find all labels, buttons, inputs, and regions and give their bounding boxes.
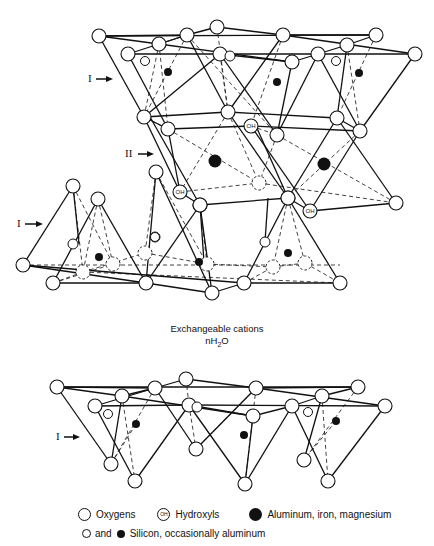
hydroxyl-label: OH <box>176 189 185 195</box>
water-o: O <box>221 335 228 346</box>
oxygen-atom-icon <box>149 165 163 179</box>
oxygen-atom-icon <box>315 389 329 403</box>
oxygen-atom-icon <box>148 381 162 395</box>
bond <box>144 112 228 117</box>
oxygen-atom-icon <box>238 477 252 491</box>
oxygen-atom-icon <box>340 38 354 52</box>
silicon-solid-symbol-icon <box>117 530 125 538</box>
oxygen-atom-icon <box>311 47 325 61</box>
silicon-atom-icon <box>355 69 363 77</box>
oxygen-atom-icon <box>249 381 263 395</box>
legend-aluminum: Aluminum, iron, magnesium <box>267 509 391 520</box>
legend-oxygens: Oxygens <box>96 509 135 520</box>
hidden-oxygen-icon <box>266 260 280 274</box>
oxygen-atom-icon <box>121 47 135 61</box>
aluminum-symbol-icon <box>249 508 262 521</box>
silicon-atom-icon <box>240 431 248 439</box>
silicon-atom-icon <box>95 253 103 261</box>
oxygen-atom-icon <box>104 457 118 471</box>
oxygen-atom-icon <box>152 37 166 51</box>
legend-hydroxyls: Hydroxyls <box>175 509 219 520</box>
solid-bonds <box>23 27 415 484</box>
silicon-open-symbol-icon <box>82 529 91 538</box>
oxygen-atom-icon <box>210 20 224 34</box>
bond <box>57 387 122 396</box>
layer-label-I-top: I <box>88 72 92 84</box>
hydroxyl-label: OH <box>306 208 315 214</box>
interlayer-caption-cations: Exchangeable cations <box>0 323 434 334</box>
bond <box>146 172 156 283</box>
arrow-icon-layer-I-bottom <box>64 434 80 440</box>
bond <box>292 406 328 481</box>
bond <box>99 36 144 117</box>
bond <box>200 198 288 205</box>
aluminum-atom-icon <box>318 158 331 171</box>
legend-and: and <box>95 528 112 539</box>
oxygen-atom-icon <box>179 372 193 386</box>
dashed-bond <box>83 199 98 272</box>
silicon-atom-icon <box>332 417 340 425</box>
oxygen-atom-icon <box>68 239 78 249</box>
bond <box>98 199 146 283</box>
oxygen-atom-icon <box>92 29 106 43</box>
oxygen-atom-icon <box>193 198 207 212</box>
hidden-oxygen-icon <box>106 257 120 271</box>
silicon-atom-icon <box>332 57 341 66</box>
oxygen-atom-icon <box>369 28 383 42</box>
silicon-atom-icon <box>195 258 203 266</box>
interlayer-caption-water: nH2O <box>0 335 434 348</box>
oxygen-atom-icon <box>237 276 251 290</box>
bond <box>57 387 111 464</box>
oxygen-atom-icon <box>16 258 30 272</box>
hidden-oxygen-icon <box>252 176 266 190</box>
silicon-atom-icon <box>284 249 292 257</box>
oxygen-atom-icon <box>408 47 422 61</box>
dashed-bond <box>217 27 228 112</box>
oxygen-atom-icon <box>297 453 311 467</box>
oxygen-atom-icon <box>180 28 194 42</box>
silicon-atom-icon <box>132 420 140 428</box>
clay-structure-diagram: OHOHOH I II I I Exchangeable cations nH2… <box>0 0 434 546</box>
hidden-atoms <box>76 176 312 279</box>
bond <box>228 35 283 112</box>
oxygen-atom-icon <box>66 179 80 193</box>
oxygen-atom-icon <box>246 409 260 423</box>
silicon-atom-icon <box>104 410 113 419</box>
oxygen-atom-icon <box>330 111 344 125</box>
oxygen-atom-icon <box>46 276 60 290</box>
hidden-oxygen-icon <box>138 246 152 260</box>
silicon-atom-icon <box>273 78 281 86</box>
dashed-bond <box>273 198 288 267</box>
atoms: OHOHOH <box>16 20 422 491</box>
bond <box>144 54 220 117</box>
oxygen-atom-icon <box>351 380 365 394</box>
bond <box>265 198 268 242</box>
bond <box>95 405 189 406</box>
oxygen-symbol-icon <box>78 508 91 521</box>
hydroxyl-symbol-icon: OH <box>157 508 170 521</box>
oxygen-atom-icon <box>128 474 142 488</box>
oxygen-atom-icon <box>333 276 347 290</box>
bond <box>277 62 292 135</box>
bond <box>23 186 73 265</box>
hidden-oxygen-icon <box>76 265 90 279</box>
oxygen-atom-icon <box>192 402 202 412</box>
dashed-bond <box>180 112 228 192</box>
oxygen-atom-icon <box>139 276 153 290</box>
oxygen-atom-icon <box>378 399 392 413</box>
bond <box>310 203 396 211</box>
dashed-bond <box>322 396 328 481</box>
oxygen-atom-icon <box>189 442 203 456</box>
oxygen-atom-icon <box>50 380 64 394</box>
arrow-icon-layer-I-top <box>96 76 113 82</box>
oxygen-atom-icon <box>137 110 151 124</box>
bond <box>135 405 189 481</box>
silicon-atom-icon <box>164 68 172 76</box>
oxygen-atom-icon <box>88 399 102 413</box>
oxygen-atom-icon <box>389 196 403 210</box>
oxygen-atom-icon <box>281 191 295 205</box>
oxygen-atom-icon <box>353 124 367 138</box>
bond <box>360 54 415 131</box>
layer-label-I-bottom: I <box>56 430 60 442</box>
layer-label-I-lower: I <box>17 217 21 229</box>
